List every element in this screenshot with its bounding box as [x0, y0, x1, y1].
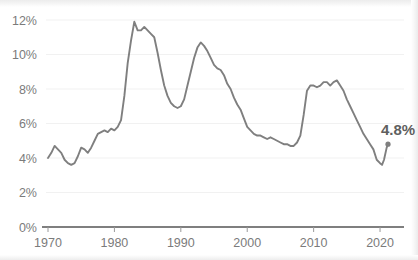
x-axis-tick-label: 2020	[366, 236, 394, 250]
chart-plot-area: 0%2%4%6%8%10%12% 19701980199020002010202…	[0, 0, 418, 260]
unemployment-rate-chart: 0%2%4%6%8%10%12% 19701980199020002010202…	[0, 0, 418, 260]
y-axis-tick-label: 4%	[19, 152, 37, 166]
end-value-label: 4.8%	[381, 121, 415, 138]
x-axis-tick-label: 2010	[300, 236, 328, 250]
y-axis-tick-label: 10%	[12, 48, 37, 62]
x-axis-tick-label: 1990	[167, 236, 195, 250]
x-axis-tick-label: 2000	[233, 236, 261, 250]
x-axis-tick-label: 1970	[34, 236, 62, 250]
x-axis-tick-label: 1980	[101, 236, 129, 250]
y-axis-tick-label: 2%	[19, 186, 37, 200]
end-point-marker	[385, 142, 390, 147]
data-series	[48, 22, 388, 165]
series-line	[48, 22, 388, 165]
chart-annotations: 4.8%	[381, 121, 415, 147]
x-axis-tick-labels: 197019801990200020102020	[34, 236, 394, 250]
y-axis-tick-label: 6%	[19, 117, 37, 131]
x-axis	[42, 227, 404, 232]
y-axis-tick-labels: 0%2%4%6%8%10%12%	[12, 14, 37, 235]
y-axis-tick-label: 12%	[12, 14, 37, 28]
y-axis-tick-label: 0%	[19, 221, 37, 235]
y-axis-tick-label: 8%	[19, 83, 37, 97]
